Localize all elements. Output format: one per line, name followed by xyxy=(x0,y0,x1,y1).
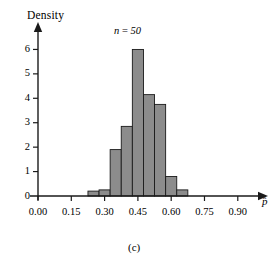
y-tick-label: 1 xyxy=(14,166,30,177)
y-tick-label: 3 xyxy=(14,117,30,128)
x-axis-title: p̂ xyxy=(262,196,268,207)
y-tick-label: 5 xyxy=(14,68,30,79)
y-tick-label: 6 xyxy=(14,44,30,55)
x-tick-label: 0.90 xyxy=(218,207,258,218)
y-tick-label: 4 xyxy=(14,93,30,104)
sample-size-value: 50 xyxy=(130,25,141,36)
y-tick-label: 2 xyxy=(14,142,30,153)
chart-text-layer: Density n = 50 p̂ (c) 0123456 0.000.150.… xyxy=(0,0,276,260)
y-tick-label: 0 xyxy=(14,191,30,202)
y-axis-title: Density xyxy=(27,10,64,22)
sample-size-annotation: n = 50 xyxy=(114,26,141,37)
figure-caption: (c) xyxy=(128,242,140,253)
sample-size-equals: = xyxy=(119,25,130,36)
histogram-figure: Density n = 50 p̂ (c) 0123456 0.000.150.… xyxy=(0,0,276,260)
